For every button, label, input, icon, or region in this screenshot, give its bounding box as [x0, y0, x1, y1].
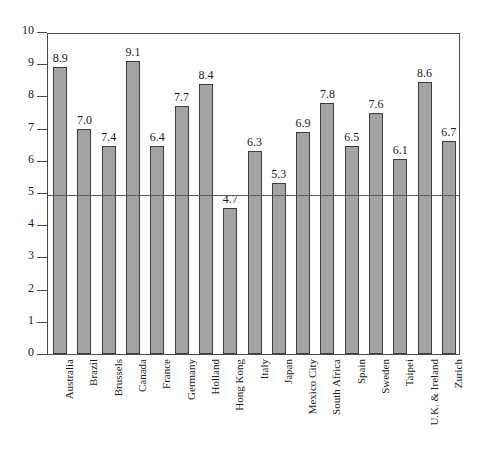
bar[interactable]: [223, 208, 237, 355]
bar[interactable]: [418, 82, 432, 354]
bar-value-label: 7.8: [320, 88, 335, 100]
bar-group[interactable]: 8.9: [53, 32, 67, 354]
bar-group[interactable]: 6.5: [345, 32, 359, 354]
y-axis-tick-mark: [37, 322, 47, 323]
bar-group[interactable]: 7.7: [175, 32, 189, 354]
bar-group[interactable]: 7.6: [369, 32, 383, 354]
x-axis-label: South Africa: [331, 359, 342, 415]
y-axis-tick-label: 7: [28, 121, 34, 133]
bar[interactable]: [126, 61, 140, 354]
bar-value-label: 6.7: [441, 126, 456, 138]
bar[interactable]: [77, 129, 91, 354]
plot-area: 8.97.07.49.16.47.78.44.76.35.36.97.86.57…: [47, 33, 460, 355]
y-axis-tick-mark: [37, 96, 47, 97]
bar-value-label: 7.6: [368, 98, 383, 110]
bar-value-label: 6.4: [150, 131, 165, 143]
bar[interactable]: [442, 141, 456, 354]
y-axis-tick-mark: [37, 290, 47, 291]
bar[interactable]: [320, 103, 334, 354]
x-axis-label: Germany: [186, 359, 197, 400]
bar-value-label: 6.9: [296, 117, 311, 129]
x-axis-label: U.K. & Ireland: [429, 359, 440, 426]
bar-group[interactable]: 8.4: [199, 32, 213, 354]
bar-value-label: 7.0: [77, 114, 92, 126]
bar-group[interactable]: 6.1: [393, 32, 407, 354]
bar-group[interactable]: 7.8: [320, 32, 334, 354]
bar[interactable]: [345, 146, 359, 354]
bar-value-label: 6.5: [344, 131, 359, 143]
bar-value-label: 8.4: [198, 69, 213, 81]
reference-line-at-5: [48, 195, 459, 196]
bar[interactable]: [248, 151, 262, 354]
bar-group[interactable]: 6.7: [442, 32, 456, 354]
x-axis-label: Italy: [259, 359, 270, 379]
bar[interactable]: [150, 146, 164, 354]
bar-value-label: 8.6: [417, 67, 432, 79]
x-axis-label: Zurich: [453, 359, 464, 388]
x-axis-label: Australia: [64, 359, 75, 399]
bar[interactable]: [296, 132, 310, 354]
bar-group[interactable]: 7.0: [77, 32, 91, 354]
bar[interactable]: [175, 106, 189, 354]
x-axis-label: Mexico City: [307, 359, 318, 414]
x-axis-label: Spain: [356, 359, 367, 384]
y-axis-tick-mark: [37, 32, 47, 33]
x-axis-label: Hong Kong: [234, 359, 245, 411]
bar-value-label: 9.1: [126, 46, 141, 58]
x-axis-label: Taipei: [404, 359, 415, 386]
y-axis-tick-label: 1: [28, 314, 34, 326]
x-axis-label: Holland: [210, 359, 221, 394]
bar-group[interactable]: 9.1: [126, 32, 140, 354]
y-axis-tick-mark: [37, 225, 47, 226]
bar-chart: 012345678910 8.97.07.49.16.47.78.44.76.3…: [0, 0, 481, 459]
y-axis-tick-label: 6: [28, 153, 34, 165]
y-axis-tick-label: 0: [28, 346, 34, 358]
bars-layer: 8.97.07.49.16.47.78.44.76.35.36.97.86.57…: [48, 34, 459, 354]
bar-group[interactable]: 6.3: [248, 32, 262, 354]
y-axis-tick-label: 10: [22, 24, 34, 36]
bar[interactable]: [369, 113, 383, 355]
x-axis-label: Brazil: [88, 359, 99, 386]
x-axis-label: Sweden: [380, 359, 391, 394]
bar-value-label: 6.1: [393, 144, 408, 156]
x-axis-label: Japan: [283, 359, 294, 384]
bar[interactable]: [199, 84, 213, 354]
bar[interactable]: [102, 146, 116, 354]
bar-value-label: 5.3: [271, 168, 286, 180]
bar-value-label: 7.7: [174, 91, 189, 103]
bar-group[interactable]: 6.9: [296, 32, 310, 354]
bar-group[interactable]: 4.7: [223, 32, 237, 354]
y-axis: 012345678910: [0, 33, 47, 355]
x-axis-label: France: [161, 359, 172, 389]
x-axis-label: Canada: [137, 359, 148, 392]
y-axis-tick-mark: [37, 257, 47, 258]
bar-group[interactable]: 6.4: [150, 32, 164, 354]
y-axis-tick-label: 2: [28, 282, 34, 294]
y-axis-tick-mark: [37, 193, 47, 194]
y-axis-tick-label: 3: [28, 249, 34, 261]
bar-value-label: 8.9: [53, 52, 68, 64]
y-axis-tick-mark: [37, 64, 47, 65]
y-axis-tick-label: 9: [28, 56, 34, 68]
bar-value-label: 6.3: [247, 136, 262, 148]
bar-group[interactable]: 7.4: [102, 32, 116, 354]
bar-group[interactable]: 8.6: [418, 32, 432, 354]
y-axis-tick-label: 4: [28, 217, 34, 229]
bar[interactable]: [272, 183, 286, 354]
x-axis-label: Brussels: [113, 359, 124, 396]
x-axis-category-labels: AustraliaBrazilBrusselsCanadaFranceGerma…: [47, 356, 460, 456]
bar[interactable]: [393, 159, 407, 354]
y-axis-tick-label: 8: [28, 88, 34, 100]
bar[interactable]: [53, 67, 67, 354]
y-axis-tick-mark: [37, 161, 47, 162]
bar-group[interactable]: 5.3: [272, 32, 286, 354]
bar-value-label: 7.4: [101, 131, 116, 143]
y-axis-tick-mark: [37, 354, 47, 355]
y-axis-tick-mark: [37, 129, 47, 130]
y-axis-tick-label: 5: [28, 185, 34, 197]
